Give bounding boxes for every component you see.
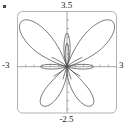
curve-lower-right-petal [67, 67, 94, 107]
curve-upper-right-wing [67, 20, 115, 67]
polar-plot-figure: 3.5 -2.5 -3 3 [0, 0, 133, 127]
x-axis-max-label: 3 [119, 61, 124, 70]
x-axis-min-label: -3 [2, 61, 10, 70]
y-axis-min-label: -2.5 [0, 115, 133, 124]
plot-canvas [0, 0, 133, 127]
curve-upper-left-wing [19, 20, 67, 67]
curve-lower-left-petal [40, 67, 67, 107]
y-axis-max-label: 3.5 [0, 1, 133, 10]
